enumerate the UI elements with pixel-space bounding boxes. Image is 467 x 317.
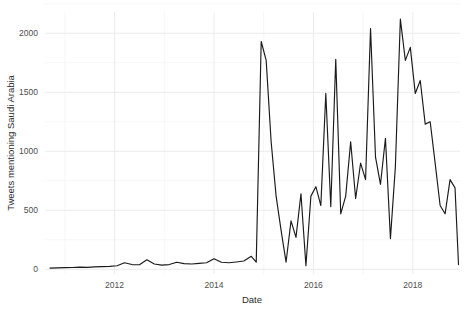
y-tick-label: 0	[33, 264, 38, 274]
x-tick-label: 2018	[403, 280, 422, 290]
x-axis-title: Date	[242, 294, 262, 305]
chart-figure: 0500100015002000 2012201420162018 Date T…	[0, 0, 467, 317]
y-tick-label: 1000	[19, 146, 38, 156]
x-axis-tick-labels: 2012201420162018	[105, 280, 422, 290]
x-tick-label: 2014	[205, 280, 224, 290]
x-tick-label: 2012	[105, 280, 124, 290]
y-tick-label: 500	[24, 205, 38, 215]
y-axis-title: Tweets mentioning Saudi Arabia	[5, 74, 16, 210]
plot-background	[45, 12, 460, 274]
x-tick-label: 2016	[304, 280, 323, 290]
y-tick-label: 2000	[19, 28, 38, 38]
line-chart: 0500100015002000 2012201420162018 Date T…	[0, 0, 467, 317]
y-axis-tick-labels: 0500100015002000	[19, 28, 38, 274]
y-tick-label: 1500	[19, 87, 38, 97]
